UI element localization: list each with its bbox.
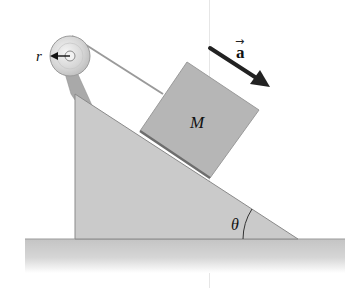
- radius-label: r: [36, 48, 42, 64]
- vector-mark-icon: →: [235, 35, 244, 48]
- ground: [25, 239, 345, 273]
- incline-pulley-diagram: M r a → θ: [0, 0, 353, 288]
- angle-label: θ: [231, 216, 239, 233]
- acceleration-arrowhead-icon: [250, 70, 270, 87]
- acceleration-arrow: a →: [210, 35, 270, 87]
- pulley: r: [36, 36, 90, 76]
- mass-label: M: [189, 113, 205, 132]
